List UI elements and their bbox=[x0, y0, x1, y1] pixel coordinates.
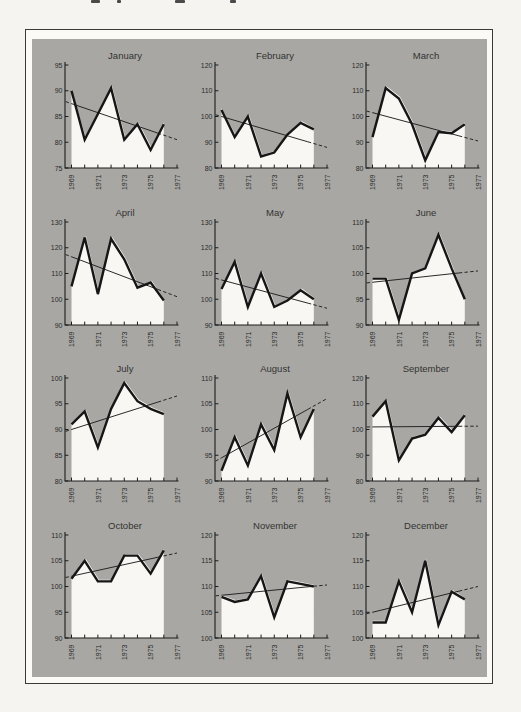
chart-cell: October909510010511019691971197319751977 bbox=[35, 518, 183, 675]
y-tick-label: 90 bbox=[55, 426, 63, 433]
y-tick-label: 80 bbox=[55, 139, 63, 146]
y-tick-label: 100 bbox=[201, 113, 213, 120]
x-tick-label: 1973 bbox=[272, 487, 279, 503]
chart-cell: April9010011012013019691971197319751977 bbox=[35, 205, 183, 362]
x-tick-label: 1973 bbox=[422, 487, 429, 503]
y-tick-label: 90 bbox=[356, 452, 364, 459]
x-tick-label: 1969 bbox=[369, 174, 376, 190]
month-chart-september: September8090100110120196919711973197519… bbox=[337, 361, 483, 513]
y-tick-label: 110 bbox=[202, 375, 213, 382]
x-tick-label: 1969 bbox=[219, 644, 226, 660]
y-tick-label: 120 bbox=[201, 62, 213, 69]
chart-cell: May9010011012013019691971197319751977 bbox=[185, 205, 333, 362]
x-tick-label: 1977 bbox=[475, 644, 482, 660]
x-tick-label: 1971 bbox=[245, 174, 252, 190]
x-tick-label: 1977 bbox=[324, 174, 331, 190]
x-tick-label: 1973 bbox=[121, 174, 128, 190]
x-tick-label: 1971 bbox=[95, 644, 102, 660]
y-tick-label: 95 bbox=[205, 452, 213, 459]
area-fill bbox=[372, 399, 464, 481]
x-tick-label: 1975 bbox=[148, 174, 155, 190]
month-chart-june: June909510010511019691971197319751977 bbox=[337, 205, 483, 357]
x-tick-label: 1973 bbox=[422, 174, 429, 190]
chart-cell: December10010511011512019691971197319751… bbox=[336, 518, 484, 675]
x-tick-label: 1977 bbox=[475, 331, 482, 347]
trend-line-dashed bbox=[66, 254, 72, 256]
area-fill bbox=[372, 86, 464, 168]
y-tick-label: 120 bbox=[51, 244, 63, 251]
y-tick-label: 95 bbox=[55, 62, 63, 69]
chart-title: August bbox=[261, 363, 291, 374]
x-tick-label: 1977 bbox=[174, 487, 181, 503]
x-tick-label: 1975 bbox=[448, 644, 455, 660]
x-tick-label: 1969 bbox=[369, 331, 376, 347]
trend-line-dashed bbox=[66, 576, 72, 577]
area-fill bbox=[372, 559, 464, 638]
y-tick-label: 120 bbox=[352, 531, 364, 538]
chart-title: January bbox=[108, 50, 142, 61]
x-tick-label: 1977 bbox=[324, 487, 331, 503]
x-tick-label: 1969 bbox=[68, 331, 75, 347]
month-chart-march: March809010011012019691971197319751977 bbox=[337, 48, 483, 200]
y-tick-label: 80 bbox=[356, 165, 364, 172]
y-tick-label: 100 bbox=[51, 375, 63, 382]
y-tick-label: 90 bbox=[55, 87, 63, 94]
y-tick-label: 90 bbox=[55, 634, 63, 641]
y-tick-label: 100 bbox=[352, 426, 364, 433]
x-tick-label: 1969 bbox=[219, 487, 226, 503]
x-tick-label: 1975 bbox=[298, 487, 305, 503]
y-tick-label: 120 bbox=[201, 531, 213, 538]
x-tick-label: 1975 bbox=[148, 644, 155, 660]
x-tick-label: 1975 bbox=[298, 644, 305, 660]
chart-title: February bbox=[256, 50, 294, 61]
x-tick-label: 1969 bbox=[219, 174, 226, 190]
chart-cell: June909510010511019691971197319751977 bbox=[336, 205, 484, 362]
trend-line-dashed bbox=[216, 595, 222, 596]
x-tick-label: 1973 bbox=[422, 644, 429, 660]
chart-cell: January758085909519691971197319751977 bbox=[35, 48, 183, 205]
trend-line-dashed bbox=[459, 270, 478, 272]
month-chart-april: April9010011012013019691971197319751977 bbox=[36, 205, 182, 357]
cropped-text-fragment bbox=[175, 0, 185, 3]
x-tick-label: 1971 bbox=[395, 487, 402, 503]
y-tick-label: 110 bbox=[352, 400, 363, 407]
y-tick-label: 95 bbox=[356, 295, 364, 302]
y-tick-label: 130 bbox=[201, 218, 213, 225]
y-tick-label: 90 bbox=[356, 139, 364, 146]
y-tick-label: 120 bbox=[352, 62, 364, 69]
y-tick-label: 110 bbox=[352, 218, 363, 225]
charts-panel: January758085909519691971197319751977Feb… bbox=[32, 39, 487, 677]
x-tick-label: 1971 bbox=[245, 487, 252, 503]
chart-title: April bbox=[116, 206, 135, 217]
y-tick-label: 100 bbox=[352, 113, 364, 120]
y-tick-label: 110 bbox=[202, 583, 213, 590]
chart-title: June bbox=[416, 206, 437, 217]
x-tick-label: 1971 bbox=[95, 174, 102, 190]
month-chart-october: October909510010511019691971197319751977 bbox=[36, 518, 182, 670]
y-tick-label: 100 bbox=[51, 583, 63, 590]
y-tick-label: 85 bbox=[55, 113, 63, 120]
chart-cell: February80901001101201969197119731975197… bbox=[185, 48, 333, 205]
x-tick-label: 1969 bbox=[68, 487, 75, 503]
x-tick-label: 1977 bbox=[174, 174, 181, 190]
x-tick-label: 1973 bbox=[121, 644, 128, 660]
x-tick-label: 1973 bbox=[121, 487, 128, 503]
x-tick-label: 1971 bbox=[245, 644, 252, 660]
y-tick-label: 110 bbox=[352, 583, 363, 590]
x-tick-label: 1977 bbox=[324, 331, 331, 347]
x-tick-label: 1969 bbox=[68, 644, 75, 660]
y-tick-label: 100 bbox=[201, 426, 213, 433]
cropped-text-fragment bbox=[230, 0, 236, 3]
y-tick-label: 100 bbox=[201, 634, 213, 641]
y-tick-label: 105 bbox=[352, 244, 364, 251]
x-tick-label: 1975 bbox=[148, 487, 155, 503]
figure-frame: January758085909519691971197319751977Feb… bbox=[25, 29, 493, 684]
chart-title: July bbox=[117, 363, 134, 374]
trend-line-dashed bbox=[366, 282, 372, 283]
area-fill bbox=[72, 86, 164, 168]
y-tick-label: 90 bbox=[205, 139, 213, 146]
x-tick-label: 1971 bbox=[395, 331, 402, 347]
x-tick-label: 1973 bbox=[272, 331, 279, 347]
y-tick-label: 110 bbox=[202, 87, 213, 94]
chart-title: September bbox=[403, 363, 449, 374]
